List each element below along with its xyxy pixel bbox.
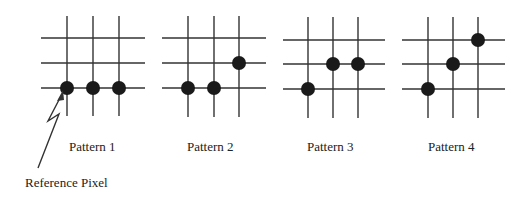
pixel-dot: [112, 81, 126, 95]
pixel-dot: [86, 81, 100, 95]
pixel-dot: [301, 82, 315, 96]
pattern-grid-3: [283, 17, 385, 118]
pixel-dot: [207, 81, 221, 95]
pattern-label-2: Pattern 2: [187, 139, 234, 155]
pattern-diagram: [0, 0, 526, 199]
pattern-grid-4: [402, 17, 505, 118]
pixel-dot: [351, 57, 365, 71]
pattern-label-3: Pattern 3: [307, 139, 354, 155]
pixel-dot: [232, 56, 246, 70]
pattern-grid-2: [162, 16, 266, 117]
pixel-dot: [326, 57, 340, 71]
pixel-dot: [421, 82, 435, 96]
reference-arrow: [38, 96, 61, 168]
pixel-dot: [181, 81, 195, 95]
arrow-head-icon: [57, 90, 64, 101]
reference-pixel-label: Reference Pixel: [25, 175, 108, 191]
pixel-dot: [446, 57, 460, 71]
pattern-grid-1: [41, 16, 145, 116]
pattern-label-4: Pattern 4: [428, 139, 475, 155]
pixel-dot: [471, 33, 485, 47]
pattern-label-1: Pattern 1: [69, 139, 116, 155]
